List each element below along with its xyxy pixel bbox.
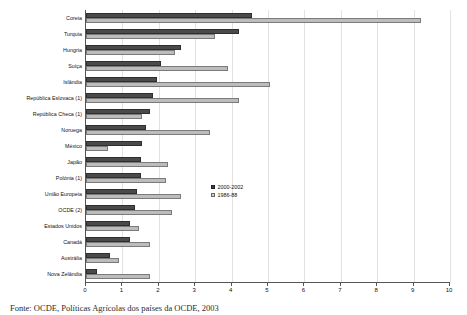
- chart-row: Turquia: [86, 26, 450, 42]
- chart-row: OCDE (2): [86, 202, 450, 218]
- category-label: Turquia: [64, 31, 82, 37]
- x-tick-label: 3: [193, 287, 196, 293]
- x-tick-label: 9: [411, 287, 414, 293]
- legend-label: 1986-88: [218, 192, 238, 198]
- bar-1: [86, 34, 215, 39]
- category-label: Suíça: [68, 63, 82, 69]
- chart-row: Japão: [86, 154, 450, 170]
- x-tick: [413, 283, 414, 286]
- plot-area: CoreiaTurquiaHungriaSuíçaIslândiaRepúbli…: [85, 10, 450, 283]
- category-label: México: [65, 143, 82, 149]
- bar-1: [86, 50, 175, 55]
- bar-1: [86, 98, 239, 103]
- bar-0: [86, 29, 239, 34]
- bar-0: [86, 125, 146, 130]
- chart-row: Canadá: [86, 234, 450, 250]
- bar-0: [86, 157, 141, 162]
- bar-1: [86, 178, 166, 183]
- bar-1: [86, 258, 119, 263]
- legend-swatch: [211, 185, 215, 189]
- bar-0: [86, 253, 110, 258]
- x-tick: [376, 283, 377, 286]
- category-label: Coreia: [66, 15, 82, 21]
- bar-1: [86, 66, 228, 71]
- category-label: Noruega: [61, 127, 82, 133]
- bar-0: [86, 189, 137, 194]
- bar-1: [86, 210, 172, 215]
- legend-label: 2000-2002: [218, 184, 244, 190]
- category-label: Austrália: [61, 255, 82, 261]
- bar-1: [86, 18, 421, 23]
- chart-row: México: [86, 138, 450, 154]
- bar-1: [86, 114, 142, 119]
- bar-0: [86, 45, 181, 50]
- chart-row: Hungria: [86, 42, 450, 58]
- x-tick-label: 1: [120, 287, 123, 293]
- bar-1: [86, 226, 139, 231]
- category-label: Nova Zelândia: [47, 271, 82, 277]
- category-label: Polónia (1): [56, 175, 82, 181]
- category-label: Islândia: [63, 79, 82, 85]
- bar-1: [86, 130, 210, 135]
- bar-0: [86, 77, 157, 82]
- bar-0: [86, 61, 161, 66]
- x-tick-label: 8: [375, 287, 378, 293]
- bar-1: [86, 146, 108, 151]
- bar-0: [86, 205, 135, 210]
- x-tick: [340, 283, 341, 286]
- bar-0: [86, 269, 97, 274]
- bar-1: [86, 194, 181, 199]
- bar-0: [86, 93, 153, 98]
- chart-row: República Checa (1): [86, 106, 450, 122]
- category-label: Japão: [67, 159, 82, 165]
- chart-row: Nova Zelândia: [86, 266, 450, 282]
- bar-0: [86, 13, 252, 18]
- chart-row: Noruega: [86, 122, 450, 138]
- x-axis: 012345678910: [85, 283, 450, 299]
- chart-figure: CoreiaTurquiaHungriaSuíçaIslândiaRepúbli…: [0, 0, 467, 315]
- x-tick: [303, 283, 304, 286]
- x-tick-label: 2: [156, 287, 159, 293]
- x-tick-label: 7: [338, 287, 341, 293]
- category-label: Canadá: [63, 239, 82, 245]
- x-tick: [158, 283, 159, 286]
- x-tick: [267, 283, 268, 286]
- x-tick: [449, 283, 450, 286]
- bar-0: [86, 141, 142, 146]
- x-tick: [231, 283, 232, 286]
- x-tick-label: 5: [265, 287, 268, 293]
- bar-0: [86, 173, 141, 178]
- chart-row: Suíça: [86, 58, 450, 74]
- bar-1: [86, 274, 150, 279]
- chart-row: Polónia (1): [86, 170, 450, 186]
- x-tick: [85, 283, 86, 286]
- category-label: OCDE (2): [58, 207, 82, 213]
- bar-0: [86, 221, 130, 226]
- source-note: Fonte: OCDE, Políticas Agrícolas dos paí…: [10, 303, 219, 313]
- chart-row: Estados Unidos: [86, 218, 450, 234]
- category-label: República Eslovaca (1): [26, 95, 82, 101]
- bar-1: [86, 162, 168, 167]
- chart-row: Austrália: [86, 250, 450, 266]
- category-label: Hungria: [63, 47, 82, 53]
- category-label: República Checa (1): [33, 111, 82, 117]
- x-tick-label: 10: [446, 287, 453, 293]
- chart-row: Coreia: [86, 10, 450, 26]
- legend-swatch: [211, 193, 215, 197]
- chart-row: República Eslovaca (1): [86, 90, 450, 106]
- x-tick-label: 4: [229, 287, 232, 293]
- chart-row: Islândia: [86, 74, 450, 90]
- bar-1: [86, 242, 150, 247]
- category-label: União Europeia: [45, 191, 82, 197]
- x-tick: [194, 283, 195, 286]
- legend-item: 1986-88: [211, 192, 243, 198]
- gridline: [450, 10, 451, 282]
- x-tick-label: 0: [83, 287, 86, 293]
- bar-0: [86, 109, 150, 114]
- legend-item: 2000-2002: [211, 184, 243, 190]
- chart-row: União Europeia: [86, 186, 450, 202]
- bar-1: [86, 82, 270, 87]
- x-tick: [121, 283, 122, 286]
- x-tick-label: 6: [302, 287, 305, 293]
- chart-legend: 2000-20021986-88: [211, 184, 243, 200]
